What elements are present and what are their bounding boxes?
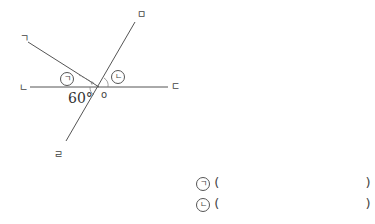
angle-60-label: 60°	[68, 90, 93, 106]
answer-open-b: (	[214, 196, 219, 211]
answer-mark-a: ㄱ	[196, 177, 210, 191]
point-label-o: o	[101, 90, 107, 100]
answer-row-b: ㄴ ( )	[196, 196, 372, 212]
angle-mark-a: ㄱ	[60, 72, 74, 86]
line-rm	[66, 22, 135, 141]
point-label-m: ㅁ	[137, 10, 146, 20]
point-label-n: ㄴ	[19, 83, 28, 93]
angle-mark-b: ㄴ	[111, 70, 125, 84]
point-label-d: ㄷ	[171, 82, 180, 92]
answer-open-a: (	[214, 175, 219, 190]
answer-mark-b: ㄴ	[196, 198, 210, 212]
angle-arc-b	[104, 78, 108, 87]
answer-row-a: ㄱ ( )	[196, 175, 372, 191]
answer-close-b: )	[366, 196, 371, 211]
point-label-g: ㄱ	[20, 34, 29, 44]
answer-close-a: )	[366, 175, 371, 190]
point-label-r: ㄹ	[54, 150, 63, 160]
